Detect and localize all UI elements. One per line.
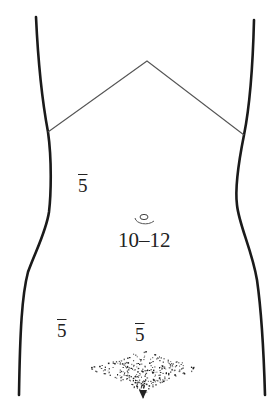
port-label-left-upper: 5: [78, 176, 88, 195]
left-flank-outline: [19, 17, 51, 395]
port-label-umbilical: 10–12: [118, 230, 171, 251]
costal-margin-line: [48, 61, 244, 135]
umbilicus-icon: [135, 214, 154, 223]
pubic-region-stipple: [91, 351, 195, 399]
right-flank-outline: [236, 20, 265, 395]
port-label-suprapubic: 5: [135, 325, 145, 344]
port-label-left-lower: 5: [57, 321, 67, 340]
